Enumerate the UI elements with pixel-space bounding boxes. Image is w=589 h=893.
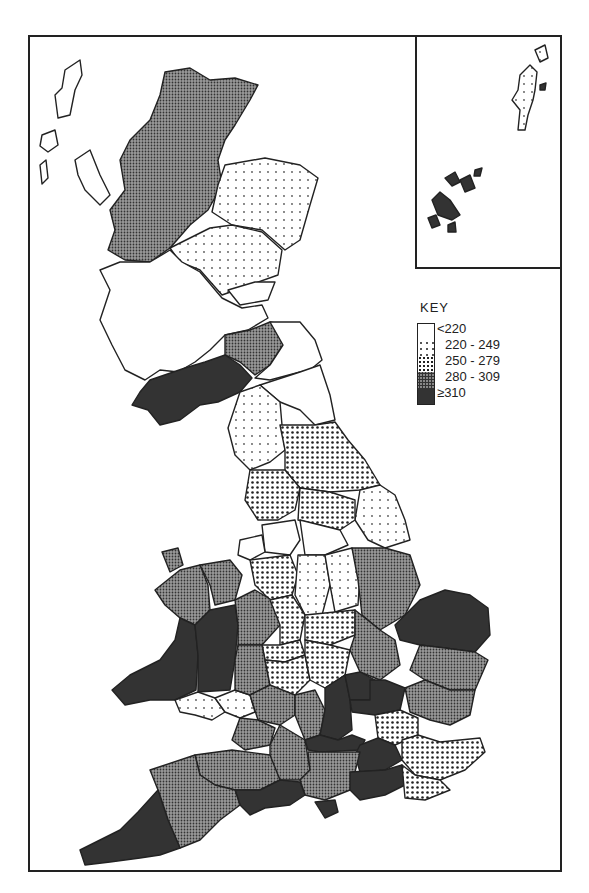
legend-swatch-220-249 <box>418 340 434 356</box>
legend-label: 220 - 249 <box>417 337 547 353</box>
legend-title: KEY <box>420 300 547 315</box>
legend-swatch-250-279 <box>418 356 434 372</box>
legend-swatch-lt-220 <box>418 324 434 340</box>
inset-frame-orkney-shetland <box>415 35 562 269</box>
legend-swatches <box>417 323 435 405</box>
legend-label: 250 - 279 <box>417 353 547 369</box>
legend-label: <220 <box>417 321 547 337</box>
legend-swatch-280-309 <box>418 372 434 388</box>
legend-swatch-ge-310 <box>418 388 434 404</box>
legend-label: 280 - 309 <box>417 369 547 385</box>
legend-label: ≥310 <box>417 385 547 401</box>
legend: KEY <220 220 - 249 250 - 279 280 - 309 ≥… <box>417 300 547 401</box>
